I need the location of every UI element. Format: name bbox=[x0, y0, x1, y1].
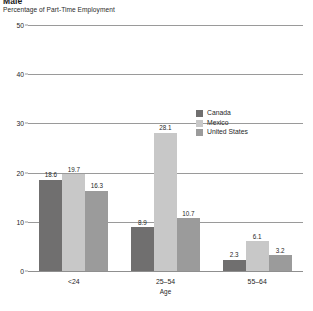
y-tick-label: 20 bbox=[16, 169, 24, 176]
bar: 16.3 bbox=[85, 191, 108, 271]
bar-value-label: 6.1 bbox=[253, 233, 262, 240]
legend-swatch-icon bbox=[196, 120, 203, 127]
bar-value-label: 2.3 bbox=[230, 251, 239, 258]
chart-container: Male Percentage of Part-Time Employment … bbox=[0, 0, 313, 311]
plot-area: 01020304050 18.619.716.38.928.110.72.36.… bbox=[28, 25, 303, 271]
y-tick-mark bbox=[25, 172, 28, 173]
bar-value-label: 10.7 bbox=[182, 210, 194, 217]
bar-value-label: 16.3 bbox=[91, 182, 103, 189]
bar-value-label: 18.6 bbox=[45, 171, 57, 178]
legend-label: Mexico bbox=[207, 120, 229, 127]
y-tick-label: 30 bbox=[16, 120, 24, 127]
x-axis-title: Age bbox=[160, 288, 171, 295]
bar: 2.3 bbox=[223, 260, 246, 271]
legend-label: Canada bbox=[207, 110, 231, 117]
chart-legend: CanadaMexicoUnited States bbox=[196, 110, 248, 136]
bar: 10.7 bbox=[177, 218, 200, 271]
y-tick-mark bbox=[25, 221, 28, 222]
y-tick-label: 50 bbox=[16, 22, 24, 29]
bar-value-label: 28.1 bbox=[159, 124, 171, 131]
bar-value-label: 8.9 bbox=[138, 219, 147, 226]
y-tick-mark bbox=[25, 271, 28, 272]
gridline bbox=[28, 271, 303, 272]
y-tick-label: 0 bbox=[20, 268, 24, 275]
y-tick-label: 40 bbox=[16, 71, 24, 78]
chart-subtitle: Percentage of Part-Time Employment bbox=[3, 6, 115, 13]
legend-swatch-icon bbox=[196, 129, 203, 136]
legend-item[interactable]: Canada bbox=[196, 110, 248, 117]
bar-value-label: 19.7 bbox=[68, 166, 80, 173]
bar: 28.1 bbox=[154, 133, 177, 271]
bar: 19.7 bbox=[62, 174, 85, 271]
y-tick-label: 10 bbox=[16, 218, 24, 225]
bar: 18.6 bbox=[39, 180, 62, 272]
bar-value-label: 3.2 bbox=[276, 247, 285, 254]
x-tick-label: <24 bbox=[68, 278, 80, 285]
legend-item[interactable]: United States bbox=[196, 129, 248, 136]
y-tick-mark bbox=[25, 74, 28, 75]
bar: 8.9 bbox=[131, 227, 154, 271]
y-tick-mark bbox=[25, 25, 28, 26]
gridline bbox=[28, 25, 303, 26]
x-tick-label: 25–54 bbox=[156, 278, 175, 285]
legend-swatch-icon bbox=[196, 110, 203, 117]
y-tick-mark bbox=[25, 123, 28, 124]
legend-label: United States bbox=[207, 129, 248, 136]
bar: 6.1 bbox=[246, 241, 269, 271]
legend-item[interactable]: Mexico bbox=[196, 120, 248, 127]
bar: 3.2 bbox=[269, 255, 292, 271]
gridline bbox=[28, 74, 303, 75]
x-tick-label: 55–64 bbox=[248, 278, 267, 285]
